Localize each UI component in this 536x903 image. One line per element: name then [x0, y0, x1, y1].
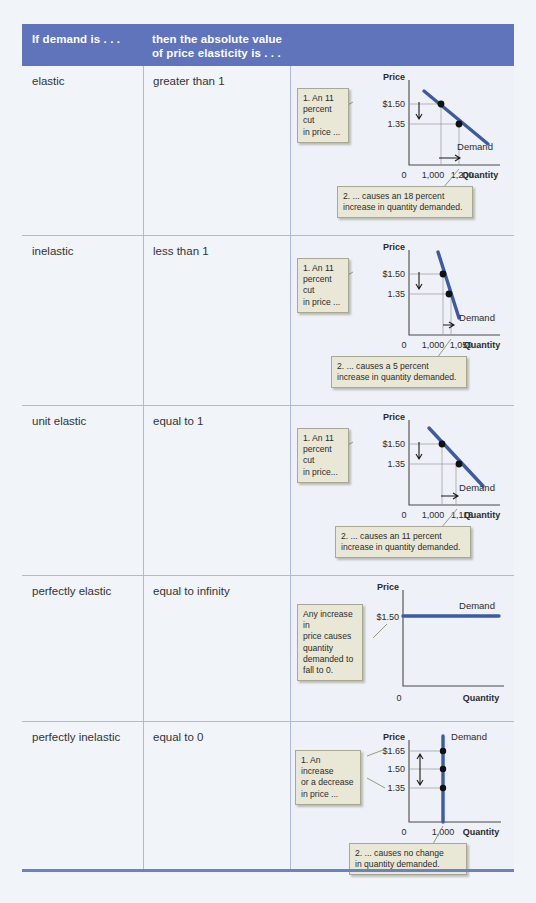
- callout-line: percent cut: [303, 444, 343, 466]
- y-axis-title: Price: [383, 242, 405, 252]
- header-col-elasticity-line2: of price elasticity is . . .: [152, 46, 302, 60]
- demand-label: Demand: [459, 482, 495, 493]
- callout-line: 1. An 11: [303, 93, 343, 104]
- row-chart: Price $1.50 0 Quantity Demand Any increa…: [291, 576, 514, 721]
- y-tick-2: 1.35: [387, 459, 405, 469]
- callout-line: Any increase in: [303, 609, 357, 631]
- chart-inelastic: Price $1.50 1.35 0 1,000 1,050 Quantity …: [291, 236, 514, 405]
- callout-any-increase: Any increase in price causes quantity de…: [297, 604, 363, 681]
- row-value: equal to infinity: [153, 585, 230, 597]
- x-axis-title: Quantity: [464, 510, 501, 520]
- callout-quantity-increase: 2. ... causes an 18 percent increase in …: [337, 186, 473, 218]
- x-origin: 0: [401, 510, 406, 520]
- callout-line: increase in quantity demanded.: [343, 202, 467, 213]
- callout-line: 1. An increase: [301, 755, 355, 777]
- x-tick-1: 1,000: [422, 510, 445, 520]
- callout-quantity-increase: 2. ... causes a 5 percent increase in qu…: [331, 356, 467, 388]
- chart-perfectly-elastic: Price $1.50 0 Quantity Demand Any increa…: [291, 576, 514, 721]
- x-origin: 0: [401, 340, 406, 350]
- elasticity-summary-table: If demand is . . . then the absolute val…: [22, 24, 514, 869]
- x-tick-1: 1,000: [422, 340, 445, 350]
- header-col-demand: If demand is . . .: [32, 32, 142, 46]
- callout-line: in price...: [303, 467, 343, 478]
- x-axis-title: Quantity: [463, 693, 500, 703]
- table-row: inelastic less than 1 Pri: [22, 236, 514, 406]
- y-axis-title: Price: [383, 732, 405, 742]
- row-label: inelastic: [32, 245, 74, 257]
- data-point-2: [456, 121, 463, 128]
- chart-unit-elastic: Price $1.50 1.35 0 1,000 1,116 Quantity …: [291, 406, 514, 575]
- quantity-rise-arrow: [443, 322, 454, 328]
- demand-label: Demand: [451, 731, 487, 742]
- callout-quantity-increase: 2. ... causes an 11 percent increase in …: [335, 526, 471, 558]
- price-drop-arrow: [416, 442, 422, 459]
- x-origin: 0: [396, 693, 401, 703]
- y-tick-1: $1.50: [382, 439, 405, 449]
- row-value: less than 1: [153, 245, 209, 257]
- row-chart: Price $1.65 1.50 1.35 0 1,000 Quantity D…: [291, 722, 514, 869]
- y-tick-3: 1.35: [387, 783, 405, 793]
- row-label: unit elastic: [32, 415, 86, 427]
- callout-line: price causes: [303, 631, 357, 642]
- callout-line: fall to 0.: [303, 665, 357, 676]
- callout-line: or a decrease: [301, 777, 355, 788]
- row-chart: Price $1.50 1.35 0 1,000 1,050 Quantity …: [291, 236, 514, 405]
- callout-leader-1a: [367, 750, 383, 756]
- data-point-1: [439, 441, 446, 448]
- quantity-rise-arrow: [441, 493, 458, 499]
- y-tick-1: $1.50: [376, 612, 399, 622]
- table-bottom-rule: [22, 869, 514, 872]
- row-label: elastic: [32, 75, 65, 87]
- chart-elastic: Price $1.50 1.35 0 1,000 1,200 Quantity …: [291, 66, 514, 235]
- table-row: perfectly inelastic equal to 0 Price: [22, 722, 514, 869]
- data-point-1: [440, 271, 447, 278]
- x-origin: 0: [401, 170, 406, 180]
- callout-line: 2. ... causes a 5 percent: [337, 361, 461, 372]
- callout-leader-1b: [367, 778, 385, 788]
- y-tick-2: 1.35: [387, 289, 405, 299]
- y-axis-title: Price: [377, 582, 399, 592]
- x-axis-title: Quantity: [462, 170, 499, 180]
- quantity-rise-arrow: [439, 155, 460, 161]
- callout-line: in price ...: [303, 127, 343, 138]
- demand-label: Demand: [459, 600, 495, 611]
- callout-line: percent cut: [303, 104, 343, 126]
- callout-price-cut: 1. An 11 percent cut in price...: [297, 428, 349, 483]
- y-tick-2: 1.35: [387, 119, 405, 129]
- callout-leader-1: [373, 624, 387, 638]
- price-drop-arrow: [416, 272, 422, 289]
- callout-line: 2. ... causes an 11 percent: [341, 531, 465, 542]
- table-row: unit elastic equal to 1 P: [22, 406, 514, 576]
- y-tick-1: $1.50: [382, 269, 405, 279]
- data-point-1: [440, 748, 446, 754]
- row-label: perfectly elastic: [32, 585, 111, 597]
- data-point-3: [440, 785, 446, 791]
- x-origin: 0: [401, 827, 406, 837]
- demand-curve: [438, 252, 459, 318]
- row-chart: Price $1.50 1.35 0 1,000 1,200 Quantity …: [291, 66, 514, 235]
- header-col-elasticity-line1: then the absolute value: [152, 32, 302, 46]
- callout-line: quantity: [303, 643, 357, 654]
- callout-line: 1. An 11: [303, 433, 343, 444]
- x-tick-1: 1,000: [422, 170, 445, 180]
- callout-price-cut: 1. An 11 percent cut in price ...: [297, 88, 349, 143]
- row-value: greater than 1: [153, 75, 225, 87]
- row-chart: Price $1.50 1.35 0 1,000 1,116 Quantity …: [291, 406, 514, 575]
- callout-price-cut: 1. An 11 percent cut in price ...: [297, 258, 349, 313]
- y-axis-title: Price: [383, 412, 405, 422]
- data-point-2: [446, 291, 453, 298]
- callout-line: increase in quantity demanded.: [337, 372, 461, 383]
- table-row: perfectly elastic equal to infinity Pric…: [22, 576, 514, 722]
- table-header: If demand is . . . then the absolute val…: [22, 24, 514, 66]
- callout-line: in price ...: [303, 297, 343, 308]
- axis-lines: [409, 80, 500, 165]
- demand-label: Demand: [457, 141, 493, 152]
- callout-line: 2. ... causes no change: [355, 848, 461, 859]
- callout-line: 1. An 11: [303, 263, 343, 274]
- table-row: elastic greater than 1: [22, 66, 514, 236]
- x-tick-1: 1,000: [432, 827, 455, 837]
- callout-price-change: 1. An increase or a decrease in price ..…: [295, 750, 361, 805]
- row-label: perfectly inelastic: [32, 731, 120, 743]
- y-tick-1: $1.50: [382, 99, 405, 109]
- row-value: equal to 0: [153, 731, 204, 743]
